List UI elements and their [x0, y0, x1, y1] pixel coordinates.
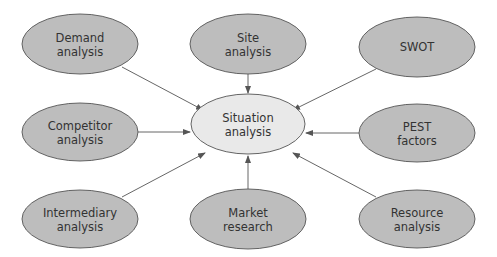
node-swot-line1: SWOT	[400, 40, 436, 54]
edge-demand-to-situation	[122, 67, 203, 110]
node-demand: Demand analysis	[22, 14, 138, 74]
svg-text:SWOT: SWOT	[400, 40, 436, 54]
svg-text:analysis: analysis	[225, 125, 272, 139]
node-demand-line2: analysis	[57, 45, 104, 59]
svg-text:analysis: analysis	[57, 133, 104, 147]
node-competitor: Competitor analysis	[22, 103, 138, 161]
situation-analysis-diagram: Demand analysis Site analysis SWOT Compe…	[0, 0, 497, 257]
svg-text:Demand: Demand	[56, 31, 105, 45]
svg-text:PEST: PEST	[403, 120, 433, 134]
svg-text:factors: factors	[397, 134, 437, 148]
node-pest: PEST factors	[359, 104, 475, 162]
edge-intermediary-to-situation	[122, 153, 205, 197]
node-resource-line1: Resource	[391, 206, 444, 220]
node-intermediary-line1: Intermediary	[43, 206, 117, 220]
svg-text:Resource: Resource	[391, 206, 444, 220]
svg-text:Situation: Situation	[222, 111, 273, 125]
node-site-line1: Site	[237, 31, 259, 45]
node-intermediary-line2: analysis	[57, 220, 104, 234]
node-site: Site analysis	[190, 14, 306, 74]
node-market: Market research	[190, 189, 306, 249]
node-competitor-line2: analysis	[57, 133, 104, 147]
svg-text:analysis: analysis	[225, 45, 272, 59]
node-situation-center: Situation analysis	[191, 94, 305, 154]
node-market-line1: Market	[228, 206, 268, 220]
node-resource: Resource analysis	[359, 190, 475, 248]
svg-text:Competitor: Competitor	[48, 119, 113, 133]
edge-resource-to-situation	[293, 153, 376, 197]
edge-swot-to-situation	[293, 69, 376, 110]
node-competitor-line1: Competitor	[48, 119, 113, 133]
node-situation-line2: analysis	[225, 125, 272, 139]
svg-text:research: research	[223, 220, 273, 234]
node-demand-line1: Demand	[56, 31, 105, 45]
node-pest-line1: PEST	[403, 120, 433, 134]
node-intermediary: Intermediary analysis	[22, 190, 138, 248]
node-resource-line2: analysis	[394, 220, 441, 234]
svg-text:analysis: analysis	[394, 220, 441, 234]
svg-text:Market: Market	[228, 206, 268, 220]
node-pest-line2: factors	[397, 134, 437, 148]
svg-text:Intermediary: Intermediary	[43, 206, 117, 220]
node-market-line2: research	[223, 220, 273, 234]
svg-text:analysis: analysis	[57, 220, 104, 234]
svg-text:analysis: analysis	[57, 45, 104, 59]
svg-text:Site: Site	[237, 31, 259, 45]
node-swot: SWOT	[359, 17, 475, 77]
node-site-line2: analysis	[225, 45, 272, 59]
node-situation-line1: Situation	[222, 111, 273, 125]
